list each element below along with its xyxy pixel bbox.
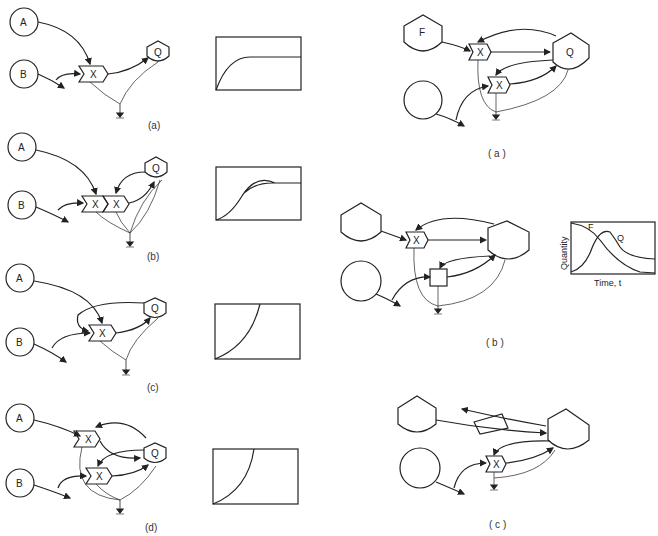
node-label: Q: [151, 303, 159, 314]
panel-caption-left-c: (c): [147, 382, 159, 393]
node-label: A: [18, 142, 25, 153]
node-label: X: [85, 434, 92, 445]
node-label: Q: [566, 47, 574, 58]
node-label: X: [493, 459, 500, 470]
node-label: X: [496, 80, 503, 91]
node-label: X: [90, 69, 97, 80]
node-label: X: [413, 235, 420, 246]
diagram-left-c: [6, 264, 166, 375]
diagram-left-b: [8, 133, 167, 247]
figure-canvas: A B X Q A B X X Q A B X Q A B X X Q F X …: [0, 0, 658, 536]
node-label: B: [20, 69, 27, 80]
node-label: Q: [151, 448, 159, 459]
chart-xlabel: Time, t: [594, 278, 622, 288]
node-label: X: [113, 199, 120, 210]
source-node-unlabeled: [404, 81, 442, 119]
panel-caption-right-a: ( a ): [488, 148, 506, 159]
chart-left-c: [215, 304, 300, 359]
storage-node-left: [341, 203, 381, 241]
node-label: A: [16, 413, 23, 424]
chart-left-d: [213, 449, 298, 504]
node-label: Q: [152, 163, 160, 174]
chart-left-a: [216, 37, 301, 90]
node-label: B: [16, 478, 23, 489]
chart-ylabel: Quantity: [559, 236, 569, 270]
chart-series-label-q: Q: [617, 233, 624, 243]
chart-series-label-f: F: [588, 222, 594, 232]
panel-caption-left-a: (a): [148, 120, 160, 131]
node-label: A: [16, 273, 23, 284]
diamond-node: [474, 414, 508, 434]
diagram-right-c: [398, 396, 589, 494]
diagram-left-d: [6, 404, 166, 514]
panel-caption-left-d: (d): [145, 522, 157, 533]
curve-q: [571, 231, 655, 272]
node-label: X: [92, 199, 99, 210]
flow-node-square: [430, 269, 447, 286]
node-label: X: [477, 47, 484, 58]
diagram-right-a: [404, 15, 589, 126]
diagram-right-b: [341, 203, 529, 314]
source-node-unlabeled: [341, 261, 381, 301]
panel-caption-left-b: (b): [147, 251, 159, 262]
chart-left-b: [216, 167, 301, 220]
storage-node-right: [548, 409, 589, 449]
node-label: X: [99, 328, 106, 339]
chart-right-b: [571, 222, 655, 274]
curve-f: [571, 223, 655, 273]
panel-caption-right-c: ( c ): [489, 519, 506, 530]
node-label: X: [96, 471, 103, 482]
storage-node-left: [398, 396, 436, 432]
panel-caption-right-b: ( b ): [486, 337, 504, 348]
source-node-unlabeled: [400, 448, 440, 488]
diagram-left-a: [10, 8, 169, 118]
node-label: B: [16, 337, 23, 348]
storage-node-right: [488, 221, 529, 259]
node-label: B: [18, 200, 25, 211]
node-label: Q: [154, 47, 162, 58]
node-label: F: [419, 27, 425, 38]
node-label: A: [20, 17, 27, 28]
